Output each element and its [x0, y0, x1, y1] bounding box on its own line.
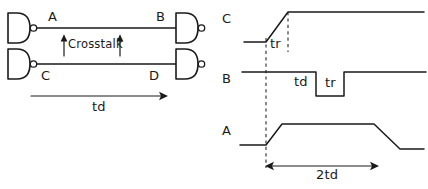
crosstalk-arrow-left	[61, 35, 68, 57]
waveform-label-c: C	[222, 12, 231, 25]
bubble-icon	[30, 25, 36, 31]
crosstalk-circuit-diagram	[0, 0, 214, 189]
figure-canvas: A B C D Crosstalk td C B A tr td tr 2td	[0, 0, 428, 189]
waveform-a	[240, 124, 424, 149]
crosstalk-label: Crosstalk	[68, 39, 123, 51]
bubble-icon	[198, 61, 204, 67]
node-label-b: B	[156, 10, 165, 23]
annotation-c-rise-tr: tr	[270, 37, 281, 50]
waveform-label-b: B	[222, 72, 231, 85]
delay-label-td: td	[92, 100, 106, 113]
annotation-b-delay-td: td	[294, 75, 308, 88]
gate-driver-top	[8, 13, 37, 43]
waveform-label-a: A	[222, 124, 231, 137]
node-label-d: D	[149, 69, 159, 82]
timing-waveform-diagram	[214, 0, 428, 189]
bubble-icon	[198, 25, 204, 31]
annotation-b-glitch-tr: tr	[325, 76, 336, 89]
gate-receiver-top	[176, 13, 205, 43]
gate-receiver-bottom	[176, 49, 205, 79]
node-label-a: A	[48, 10, 57, 23]
node-label-c: C	[41, 69, 50, 82]
gate-driver-bottom	[8, 49, 37, 79]
bubble-icon	[30, 61, 36, 67]
annotation-a-width-2td: 2td	[316, 168, 338, 181]
